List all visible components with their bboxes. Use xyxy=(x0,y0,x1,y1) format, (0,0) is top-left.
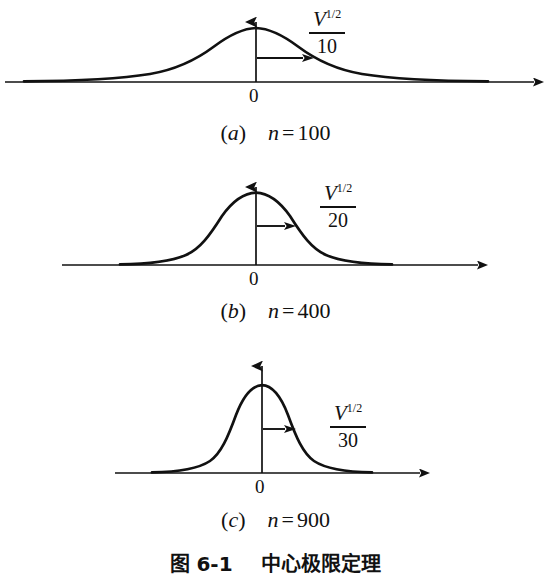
sigma-numerator-a: V1/2 xyxy=(309,8,345,31)
caption-c-value: 900 xyxy=(297,507,330,532)
caption-b-equals: = xyxy=(279,298,297,323)
caption-b-variable: n xyxy=(268,298,279,323)
fraction-bar-c xyxy=(330,426,366,428)
sigma-label-c: V1/2 30 xyxy=(330,402,366,450)
fraction-bar-a xyxy=(309,32,345,34)
panel-b: 0 V1/2 20 (b)n=400 xyxy=(0,160,551,332)
sigma-exponent-b: 1/2 xyxy=(337,181,352,195)
caption-b-paren-close: ) xyxy=(239,298,246,323)
caption-c: (c)n=900 xyxy=(0,509,551,531)
sigma-denominator-c: 30 xyxy=(330,430,366,450)
figure-title-number: 6-1 xyxy=(190,552,238,576)
origin-label-c: 0 xyxy=(255,477,265,496)
caption-a-paren-close: ) xyxy=(239,120,246,145)
caption-a-variable: n xyxy=(268,120,279,145)
sigma-exponent-c: 1/2 xyxy=(347,401,362,415)
sigma-label-b: V1/2 20 xyxy=(320,182,356,230)
caption-c-paren-close: ) xyxy=(238,507,245,532)
caption-b-value: 400 xyxy=(298,298,331,323)
fraction-bar-b xyxy=(320,206,356,208)
caption-b-paren-open: ( xyxy=(220,298,227,323)
caption-a-value: 100 xyxy=(298,120,331,145)
caption-c-equals: = xyxy=(279,507,297,532)
caption-c-variable: n xyxy=(268,507,279,532)
sigma-exponent-a: 1/2 xyxy=(326,7,341,21)
panel-a: 0 V1/2 10 (a)n=100 xyxy=(0,0,551,155)
origin-label-b: 0 xyxy=(249,269,259,288)
sigma-numerator-c: V1/2 xyxy=(330,402,366,425)
caption-b: (b)n=400 xyxy=(0,300,551,322)
caption-a-paren-open: ( xyxy=(220,120,227,145)
caption-a-letter: a xyxy=(228,120,239,145)
plot-c xyxy=(0,337,551,517)
sigma-denominator-a: 10 xyxy=(309,36,345,56)
caption-a-equals: = xyxy=(279,120,297,145)
caption-b-letter: b xyxy=(228,298,239,323)
caption-c-letter: c xyxy=(228,507,238,532)
sigma-denominator-b: 20 xyxy=(320,210,356,230)
sigma-label-a: V1/2 10 xyxy=(309,8,345,56)
figure-title-label: 图 xyxy=(170,552,190,576)
origin-label-a: 0 xyxy=(249,86,259,105)
figure-title: 图6-1中心极限定理 xyxy=(0,553,551,575)
panel-c: 0 V1/2 30 (c)n=900 xyxy=(0,337,551,517)
sigma-numerator-b: V1/2 xyxy=(320,182,356,205)
caption-a: (a)n=100 xyxy=(0,122,551,144)
figure-title-text: 中心极限定理 xyxy=(261,552,381,576)
